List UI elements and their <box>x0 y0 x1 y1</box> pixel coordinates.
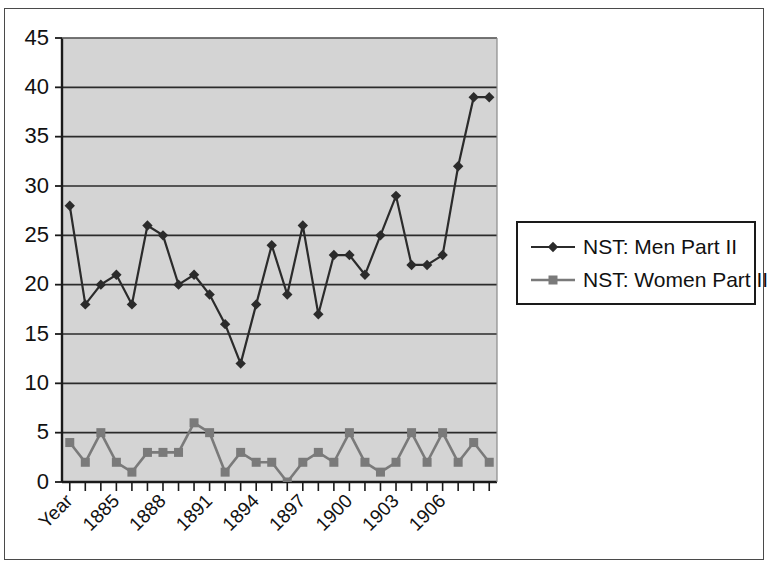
data-point-marker <box>454 458 463 467</box>
y-tick-label: 30 <box>25 173 49 198</box>
data-point-marker <box>423 458 432 467</box>
x-tick-label: 1891 <box>172 490 217 535</box>
y-tick-label: 5 <box>37 419 49 444</box>
data-point-marker <box>143 448 152 457</box>
chart-figure: 051015202530354045Year188518881891189418… <box>0 0 771 574</box>
x-tick-label: 1888 <box>125 490 170 535</box>
data-point-marker <box>96 428 105 437</box>
x-tick-label: 1906 <box>405 490 450 535</box>
data-point-marker <box>469 438 478 447</box>
legend-label-women: NST: Women Part II <box>583 268 768 291</box>
data-point-marker <box>392 458 401 467</box>
y-tick-label: 20 <box>25 271 49 296</box>
y-tick-label: 0 <box>37 469 49 494</box>
data-point-marker <box>438 428 447 437</box>
y-axis-ticks: 051015202530354045 <box>25 25 62 494</box>
data-point-marker <box>127 468 136 477</box>
data-point-marker <box>360 458 369 467</box>
data-point-marker <box>314 448 323 457</box>
x-tick-label: 1900 <box>311 490 356 535</box>
chart-legend: NST: Men Part IINST: Women Part II <box>517 222 768 304</box>
data-point-marker <box>158 448 167 457</box>
x-axis-labels: Year18851888189118941897190019031906 <box>35 490 450 535</box>
data-point-marker <box>298 458 307 467</box>
data-point-marker <box>345 428 354 437</box>
y-tick-label: 35 <box>25 123 49 148</box>
line-chart: 051015202530354045Year188518881891189418… <box>0 0 771 574</box>
data-point-marker <box>112 458 121 467</box>
data-point-marker <box>485 458 494 467</box>
legend-label-men: NST: Men Part II <box>583 235 737 258</box>
y-tick-label: 45 <box>25 25 49 50</box>
data-point-marker <box>376 468 385 477</box>
x-tick-label: 1897 <box>265 490 310 535</box>
y-tick-label: 25 <box>25 222 49 247</box>
y-tick-label: 40 <box>25 74 49 99</box>
x-tick-label: 1903 <box>358 490 403 535</box>
y-tick-label: 10 <box>25 370 49 395</box>
x-tick-label: 1894 <box>218 490 263 535</box>
data-point-marker <box>407 428 416 437</box>
data-point-marker <box>252 458 261 467</box>
chart-page: 051015202530354045Year188518881891189418… <box>0 0 771 574</box>
x-tick-label: 1885 <box>78 490 123 535</box>
data-point-marker <box>205 428 214 437</box>
data-point-marker <box>65 438 74 447</box>
x-axis-ticks <box>70 482 489 491</box>
x-tick-label: Year <box>35 490 77 532</box>
data-point-marker <box>267 458 276 467</box>
data-point-marker <box>549 276 558 285</box>
y-tick-label: 15 <box>25 321 49 346</box>
data-point-marker <box>236 448 245 457</box>
data-point-marker <box>190 418 199 427</box>
data-point-marker <box>329 458 338 467</box>
data-point-marker <box>81 458 90 467</box>
data-point-marker <box>174 448 183 457</box>
plot-background <box>62 38 497 482</box>
data-point-marker <box>221 468 230 477</box>
